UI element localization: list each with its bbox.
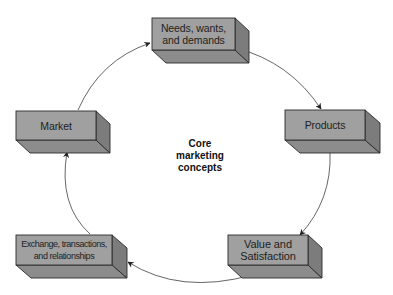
- node-products-label: Products: [285, 110, 365, 140]
- center-title-line-1: Core: [160, 138, 240, 150]
- node-market-line-1: Market: [40, 120, 72, 132]
- center-title-line-3: concepts: [160, 162, 240, 174]
- node-value-label: Value and Satisfaction: [228, 235, 308, 265]
- arrow-exchange-to-market: [65, 152, 90, 234]
- arrow-market-to-needs: [78, 43, 150, 110]
- node-needs-line-2: and demands: [162, 34, 225, 46]
- arrow-products-to-value: [300, 152, 330, 235]
- node-value-line-1: Value and: [244, 238, 292, 251]
- node-market-label: Market: [16, 111, 96, 140]
- node-exchange-label: Exchange, transactions, and relationship…: [16, 235, 112, 265]
- node-needs-line-1: Needs, wants,: [161, 22, 226, 34]
- node-exchange-line-2: and relationships: [34, 250, 94, 262]
- node-needs-label: Needs, wants, and demands: [152, 18, 235, 50]
- node-products-line-1: Products: [305, 119, 346, 131]
- center-title-line-2: marketing: [160, 150, 240, 162]
- center-title: Core marketing concepts: [160, 138, 240, 174]
- node-value-line-2: Satisfaction: [240, 250, 296, 263]
- node-exchange-line-1: Exchange, transactions,: [21, 238, 107, 250]
